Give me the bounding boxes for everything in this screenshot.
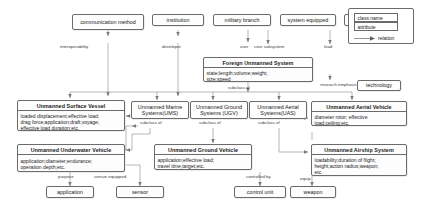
node-unmanned-surface-vessel[interactable]: Unmanned Surface Vessel loaded displacem…: [17, 100, 125, 131]
edge-label-research-emphasis: research emphasis: [320, 82, 357, 87]
node-communication-method-label: communication method: [80, 19, 136, 25]
node-unmanned-airship-system[interactable]: Unmanned Airship System loadability;dura…: [311, 144, 407, 176]
node-unmanned-ground-vehicle-attributes: application;effective load; travel time;…: [155, 155, 251, 170]
edge-label-core-subsystem: core subsystem: [254, 44, 284, 49]
node-sensor[interactable]: sensor: [116, 186, 164, 198]
edge-label-purpose: purpose: [58, 174, 74, 179]
edge-label-developer: developer: [162, 44, 181, 49]
node-unmanned-marine-systems[interactable]: Unmanned Marine Systems(UMS): [131, 101, 189, 119]
edge-label-sensor-equipped: sensor equipped: [94, 174, 126, 179]
node-unmanned-ground-vehicle-title: Unmanned Ground Vehicle: [155, 145, 251, 155]
legend-class-name-label: class name: [358, 15, 383, 21]
node-communication-method[interactable]: communication method: [72, 14, 144, 30]
edge-label-subclass-of-1: subclass of: [228, 85, 250, 90]
node-military-branch-label: military branch: [224, 17, 259, 23]
legend-relation-label: relation: [378, 35, 394, 41]
legend-class-name-box: class name: [354, 13, 398, 22]
node-system-equipped[interactable]: system equipped: [280, 14, 336, 26]
node-unmanned-airship-system-attributes: loadability;duration of flight; height;a…: [312, 155, 406, 176]
edge-label-controlled-by: controlled by: [246, 174, 271, 179]
node-unmanned-aerial-vehicle-attributes: diameter rotor; effective load;ceiling;e…: [312, 112, 406, 127]
node-unmanned-ground-systems-label: Unmanned Ground Systems (UGV): [196, 104, 242, 116]
legend-box: class name attribute relation: [348, 8, 414, 44]
node-foreign-unmanned-system-title: Foreign Unmanned System: [204, 58, 312, 68]
node-unmanned-aerial-vehicle[interactable]: Unmanned Aerial Vehicle diameter rotor; …: [311, 101, 407, 126]
edge-label-subclass-of-2: subclass of: [140, 120, 162, 125]
node-foreign-unmanned-system-attributes: state;length;volume;weight; size;speed: [204, 68, 312, 83]
node-unmanned-aerial-systems-label: Unmanned Aerial Systems(UAS): [257, 104, 298, 116]
edge-label-user: user: [240, 44, 248, 49]
node-sensor-label: sensor: [132, 189, 148, 195]
node-unmanned-underwater-vehicle-title: Unmanned Underwater Vehicle: [18, 145, 124, 155]
node-unmanned-marine-systems-label: Unmanned Marine Systems(UMS): [138, 104, 182, 116]
legend-relation-row: relation: [354, 34, 412, 42]
node-system-equipped-label: system equipped: [288, 17, 329, 23]
edge-label-load: load: [324, 44, 332, 49]
edge-label-subclass-of-3: subclass of: [199, 120, 221, 125]
edge-label-interoperability: interoperability: [60, 44, 88, 49]
node-institution-label: institution: [167, 17, 190, 23]
edge-label-equip: equip: [300, 176, 311, 181]
node-unmanned-surface-vessel-attributes: loaded displacement;effective load; drag…: [18, 111, 124, 132]
node-weapon-label: weapon: [304, 189, 323, 195]
node-technology[interactable]: technology: [357, 80, 401, 91]
node-application[interactable]: application: [46, 186, 94, 198]
edge-label-subclass-of-4: subclass of: [258, 120, 280, 125]
legend-attribute-label: attribute: [358, 24, 376, 30]
node-institution[interactable]: institution: [152, 14, 204, 26]
node-weapon[interactable]: weapon: [290, 186, 336, 198]
node-application-label: application: [57, 189, 83, 195]
node-unmanned-underwater-vehicle-attributes: application;diameter;endurance; operatio…: [18, 155, 124, 172]
node-unmanned-ground-systems[interactable]: Unmanned Ground Systems (UGV): [190, 101, 248, 119]
node-technology-label: technology: [366, 82, 392, 88]
node-unmanned-aerial-systems[interactable]: Unmanned Aerial Systems(UAS): [249, 101, 307, 119]
node-control-unit[interactable]: control unit: [234, 186, 286, 198]
node-foreign-unmanned-system[interactable]: Foreign Unmanned System state;length;vol…: [203, 57, 313, 82]
node-unmanned-surface-vessel-title: Unmanned Surface Vessel: [18, 101, 124, 111]
node-unmanned-aerial-vehicle-title: Unmanned Aerial Vehicle: [312, 102, 406, 112]
legend-attribute-box: attribute: [354, 22, 398, 31]
node-military-branch[interactable]: military branch: [213, 14, 271, 26]
node-unmanned-airship-system-title: Unmanned Airship System: [312, 145, 406, 155]
node-unmanned-ground-vehicle[interactable]: Unmanned Ground Vehicle application;effe…: [154, 144, 252, 170]
node-unmanned-underwater-vehicle[interactable]: Unmanned Underwater Vehicle application;…: [17, 144, 125, 172]
arrow-right-icon: [354, 35, 376, 42]
node-control-unit-label: control unit: [247, 189, 273, 195]
